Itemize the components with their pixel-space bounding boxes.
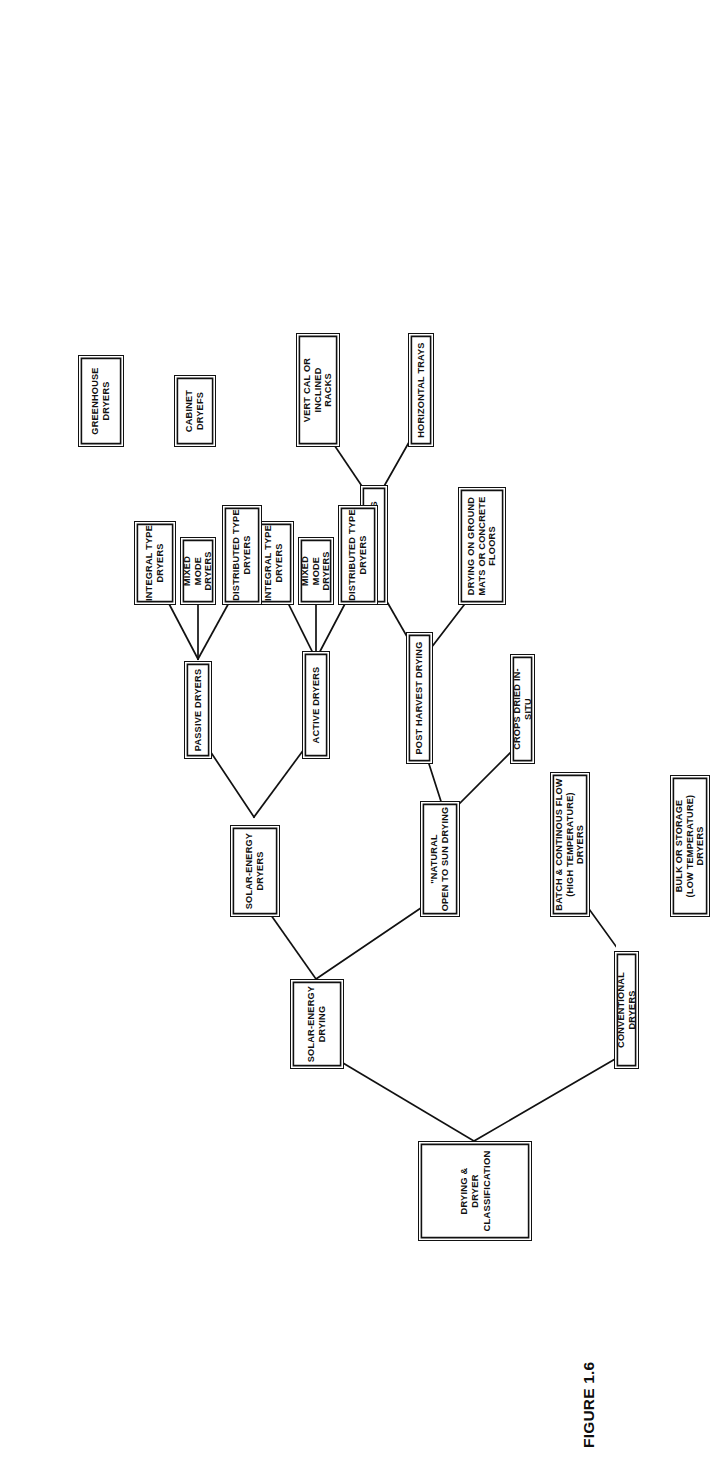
node-natural-open-sun-drying: "NATURAL OPEN TO SUN DRYING [420,801,460,917]
node-passive-mixed-mode-label: MIXED MODE DRYERS [182,541,215,601]
node-cabinet-dryers: CABINET DRYEFS [174,375,216,447]
node-batch-continuous-dryers: BATCH & CONTINOUS FLOW (HIGH TEMPERATURE… [550,772,590,917]
node-active-dryers: ACTIVE DRYERS [302,651,330,759]
node-horizontal-trays-label: HORIZONTAL TRAYS [416,342,427,437]
figure-caption: FIGURE 1.6 [580,1362,598,1448]
node-active-dryers-label: ACTIVE DRYERS [311,667,322,744]
figure-caption-wrap: FIGURE 1.6 [578,1328,618,1448]
node-root: DRYING & DRYER CLASSIFICATION [418,1141,532,1241]
node-bulk-or-storage-dryers-label: BULK OR STORAGE (LOW TEMPERATURE) DRYERS [674,779,707,913]
node-passive-distributed-type: DISTRIBUTED TYPE DRYERS [222,505,262,605]
node-conventional-dryers: CONVENTIONAL DRYERS [614,951,639,1069]
node-active-mixed-mode-label: MIXED MODE DRYERS [300,541,333,601]
node-conventional-dryers-label: CONVENTIONAL DRYERS [616,955,638,1065]
node-greenhouse-dryers-label: GREENHOUSE DRYERS [90,367,112,434]
node-crops-dried-in-situ-label: CROPS DRIED IN-SITU [512,658,534,760]
node-passive-mixed-mode: MIXED MODE DRYERS [180,537,216,605]
node-greenhouse-dryers: GREENHOUSE DRYERS [78,355,124,447]
node-passive-integral-type-label: INTEGRAL TYPE DRYERS [144,525,166,601]
node-solar-energy-drying-label: SOLAR-ENERGY DRYING [306,986,328,1062]
node-active-distributed-type-label: DISTRIBUTED TYPE DRYERS [347,509,369,601]
node-vertical-inclined-racks: VERT CAL OR INCLINED RACKS [296,333,340,447]
node-batch-continuous-dryers-label: BATCH & CONTINOUS FLOW (HIGH TEMPERATURE… [554,776,587,913]
node-vertical-inclined-racks-label: VERT CAL OR INCLINED RACKS [302,337,335,443]
node-post-harvest-drying-label: POST HARVEST DRYING [414,641,425,754]
node-solar-energy-dryers-label: SOLAR-ENERGY DRYERS [244,833,266,909]
node-active-mixed-mode: MIXED MODE DRYERS [298,537,334,605]
node-bulk-or-storage-dryers: BULK OR STORAGE (LOW TEMPERATURE) DRYERS [670,775,710,917]
tree-diagram-canvas: DRYING & DRYER CLASSIFICATIONCONVENTIONA… [16,39,616,1419]
node-passive-distributed-type-label: DISTRIBUTED TYPE DRYERS [231,509,253,601]
node-solar-energy-drying: SOLAR-ENERGY DRYING [290,979,344,1069]
node-drying-on-ground: DRYING ON GROUND MATS OR CONCRETE FLOORS [458,487,506,605]
tree-nodes: DRYING & DRYER CLASSIFICATIONCONVENTIONA… [16,39,616,1419]
node-crops-dried-in-situ: CROPS DRIED IN-SITU [510,654,535,764]
node-passive-dryers: PASSIVE DRYERS [184,661,212,759]
node-horizontal-trays: HORIZONTAL TRAYS [408,333,434,447]
node-natural-open-sun-drying-label: "NATURAL OPEN TO SUN DRYING [429,807,451,912]
node-cabinet-dryers-label: CABINET DRYEFS [184,390,206,432]
node-root-label: DRYING & DRYER CLASSIFICATION [458,1151,491,1232]
node-post-harvest-drying: POST HARVEST DRYING [406,632,433,764]
node-passive-integral-type: INTEGRAL TYPE DRYERS [134,521,176,605]
node-passive-dryers-label: PASSIVE DRYERS [193,669,204,751]
node-active-distributed-type: DISTRIBUTED TYPE DRYERS [338,505,378,605]
node-active-integral-type-label: INTEGRAL TYPE DRYERS [263,525,285,601]
node-drying-on-ground-label: DRYING ON GROUND MATS OR CONCRETE FLOORS [466,497,499,596]
node-solar-energy-dryers: SOLAR-ENERGY DRYERS [230,825,280,917]
